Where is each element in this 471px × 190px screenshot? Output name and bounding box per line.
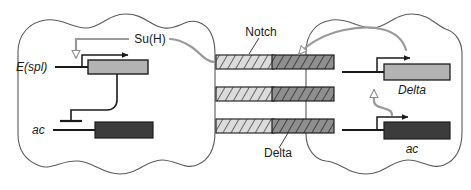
figure-canvas: Su(H) E(spl) ac Notch Delta Delta ac <box>0 0 471 190</box>
notch-protein-1 <box>216 55 274 69</box>
delta-protein-1 <box>272 55 334 69</box>
notch-protein-2 <box>216 87 274 101</box>
ac-label-left: ac <box>32 123 45 137</box>
espl-label: E(spl) <box>16 60 47 74</box>
notch-label: Notch <box>245 25 276 39</box>
ac-label-right: ac <box>406 142 419 156</box>
ac-gene-box-left <box>95 122 153 138</box>
notch-protein-3 <box>216 119 274 133</box>
receptor-pair-2 <box>216 87 334 101</box>
delta-label-membrane: Delta <box>264 146 292 160</box>
delta-gene-label: Delta <box>398 83 426 97</box>
su-h-label: Su(H) <box>134 32 165 46</box>
receptor-pair-3 <box>216 119 334 133</box>
notch-delta-diagram: Su(H) E(spl) ac Notch Delta Delta ac <box>0 0 471 190</box>
espl-gene-box <box>88 60 148 74</box>
delta-protein-3 <box>272 119 334 133</box>
receptor-pair-1 <box>216 55 334 69</box>
ac-gene-box-right <box>384 122 450 139</box>
delta-protein-2 <box>272 87 334 101</box>
notch-label-leader <box>249 38 259 54</box>
delta-gene-box <box>384 64 450 80</box>
